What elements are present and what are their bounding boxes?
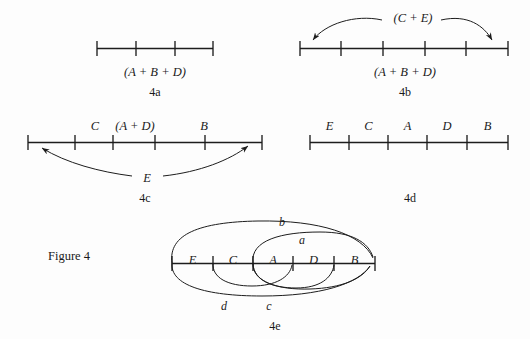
panel-4d-label-E: E — [310, 116, 349, 134]
panel-4b-segment-label: (A + B + D) — [325, 62, 485, 80]
panel-4d-drawing — [310, 135, 508, 150]
figure-container: (A + B + D) 4a (C + E) (A + B + D) 4b C … — [0, 0, 530, 339]
panel-4e-arc-label-b: b — [267, 212, 297, 230]
panel-4d-caption: 4d — [375, 188, 445, 206]
panel-4a-segment-label: (A + B + D) — [97, 62, 213, 80]
figure-drawing — [0, 0, 530, 339]
panel-4e-arc-label-d: d — [209, 296, 239, 314]
panel-4e-arc-label-c: c — [254, 296, 284, 314]
panel-4e-interval-D: D — [293, 250, 334, 268]
panel-4d-label-A: A — [388, 116, 427, 134]
panel-4c-label-AD: (A + D) — [113, 116, 157, 134]
panel-4d-label-D: D — [427, 116, 467, 134]
panel-4e-caption: 4e — [240, 316, 310, 334]
panel-4c-caption: 4c — [110, 188, 180, 206]
panel-4d-label-C: C — [349, 116, 388, 134]
panel-4a-drawing — [97, 41, 213, 56]
panel-4c-label-C: C — [76, 116, 114, 134]
panel-4c-label-B: B — [176, 116, 232, 134]
panel-4d-label-B: B — [467, 116, 508, 134]
panel-4e-interval-B: B — [334, 250, 375, 268]
panel-4e-interval-E: E — [172, 250, 213, 268]
panel-4e-interval-A: A — [253, 250, 293, 268]
panel-4c-arrow-label: E — [131, 168, 163, 186]
figure-caption: Figure 4 — [48, 246, 90, 264]
panel-4b-arrow-label: (C + E) — [368, 8, 458, 26]
panel-4b-caption: 4b — [325, 82, 485, 100]
panel-4e-interval-C: C — [213, 250, 253, 268]
panel-4a-caption: 4a — [97, 82, 213, 100]
panel-4e-arc-label-a: a — [287, 230, 317, 248]
